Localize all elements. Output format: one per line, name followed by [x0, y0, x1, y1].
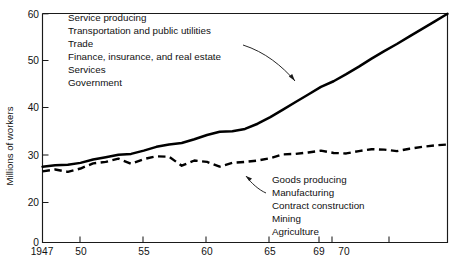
- annotation-line: Manufacturing: [272, 187, 334, 198]
- leader-line-service-producing: [243, 45, 295, 81]
- x-tick-label: 70: [338, 246, 350, 257]
- annotation-line: Finance, insurance, and real estate: [68, 51, 222, 62]
- annotation-line: Mining: [272, 213, 301, 224]
- x-tick-label: 1947: [31, 246, 54, 257]
- x-tick-label: 65: [264, 246, 276, 257]
- y-tick-label: 20: [28, 197, 40, 208]
- annotation-line: Service producing: [68, 12, 146, 23]
- x-tick-label: 55: [138, 246, 150, 257]
- employment-line-chart: 60 50 40 30 20 0 Millions of workers 194…: [0, 0, 458, 270]
- annotation-line: Transportation and public utilities: [68, 25, 211, 36]
- annotation-block-goods-producing: Goods producing Manufacturing Contract c…: [272, 174, 365, 237]
- x-tick-label: 50: [75, 246, 87, 257]
- series-line-service-producing: [43, 14, 448, 167]
- chart-container: 60 50 40 30 20 0 Millions of workers 194…: [0, 0, 458, 270]
- x-axis-tick-labels: 1947 50 55 60 65 69 70: [31, 246, 350, 257]
- y-axis-ticks: [43, 14, 49, 243]
- y-axis-title: Millions of workers: [4, 106, 15, 185]
- x-tick-label: 69: [313, 246, 325, 257]
- annotation-line: Trade: [68, 38, 94, 49]
- annotation-block-service-producing: Service producing Transportation and pub…: [68, 12, 222, 88]
- annotation-line: Government: [68, 77, 122, 88]
- x-axis-ticks: [43, 237, 390, 243]
- annotation-line: Agriculture: [272, 226, 319, 237]
- annotation-line: Services: [68, 64, 106, 75]
- y-axis-tick-labels: 60 50 40 30 20 0: [28, 9, 40, 249]
- annotation-line: Goods producing: [272, 174, 347, 185]
- leader-line-goods-producing: [246, 176, 266, 193]
- x-tick-label: 60: [201, 246, 213, 257]
- y-tick-label: 40: [28, 102, 40, 113]
- y-tick-label: 60: [28, 9, 40, 20]
- y-tick-label: 30: [28, 150, 40, 161]
- y-tick-label: 50: [28, 55, 40, 66]
- annotation-line: Contract construction: [272, 200, 365, 211]
